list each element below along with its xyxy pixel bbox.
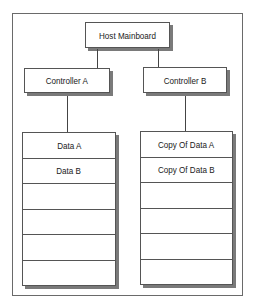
- data-row: [23, 184, 115, 210]
- data-row: [23, 261, 115, 287]
- controller-b-label: Controller B: [164, 75, 207, 86]
- data-row-label: Copy Of Data B: [158, 164, 215, 175]
- data-row: [141, 260, 232, 286]
- controller-b-box: Controller B: [143, 67, 227, 93]
- data-row: [23, 235, 115, 261]
- data-row-label: Data A: [57, 140, 81, 151]
- data-row: Data A: [23, 133, 115, 159]
- host-mainboard-label: Host Mainboard: [99, 30, 156, 41]
- connector-host-controller-a: [97, 49, 98, 68]
- controller-a-label: Controller A: [46, 75, 88, 86]
- controller-a-box: Controller A: [24, 68, 110, 93]
- data-row: Copy Of Data B: [141, 158, 232, 184]
- data-stack-a: Data A Data B: [22, 132, 116, 286]
- data-row: [141, 183, 232, 209]
- data-row: [23, 210, 115, 236]
- data-row-label: Data B: [57, 165, 82, 176]
- connector-controller-a-stack: [67, 96, 68, 132]
- host-mainboard-box: Host Mainboard: [85, 22, 170, 48]
- data-row: [141, 209, 232, 235]
- data-row-label: Copy Of Data A: [158, 139, 214, 150]
- data-row: [141, 234, 232, 260]
- data-row: Data B: [23, 159, 115, 185]
- data-stack-b: Copy Of Data A Copy Of Data B: [140, 131, 233, 285]
- connector-controller-b-stack: [185, 96, 186, 131]
- connector-host-controller-b: [158, 49, 159, 67]
- data-row: Copy Of Data A: [141, 132, 232, 158]
